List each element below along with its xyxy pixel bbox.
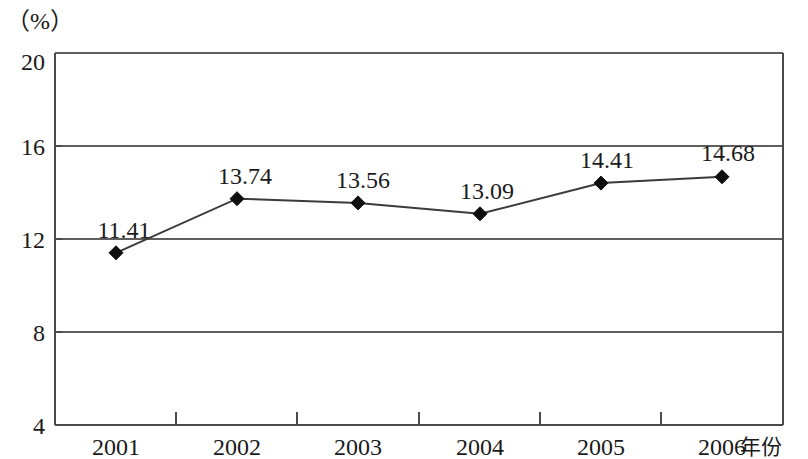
x-axis-title: 年份 [740,435,782,459]
line-chart: 20 16 12 8 4 2001 2002 2003 2004 2005 20… [0,0,808,459]
data-label-2006: 14.68 [701,140,755,166]
x-tick-label-2002: 2002 [213,434,261,459]
data-label-2003: 13.56 [336,167,390,193]
y-tick-label-12: 12 [21,227,45,253]
x-tick-label-2001: 2001 [92,434,140,459]
data-label-2002: 13.74 [218,163,272,189]
x-tick-label-2005: 2005 [577,434,625,459]
x-tick-label-2004: 2004 [456,434,504,459]
y-tick-label-16: 16 [21,134,45,160]
y-tick-label-8: 8 [33,320,45,346]
y-tick-label-4: 4 [33,413,45,439]
data-label-2004: 13.09 [460,178,514,204]
x-tick-label-2003: 2003 [334,434,382,459]
chart-page: （%） 20 16 12 8 4 2001 2002 2003 2004 [0,0,808,459]
data-label-2001: 11.41 [97,217,150,243]
y-tick-label-20: 20 [21,49,45,75]
x-tick-label-2006: 2006 [698,434,746,459]
data-label-2005: 14.41 [580,147,634,173]
